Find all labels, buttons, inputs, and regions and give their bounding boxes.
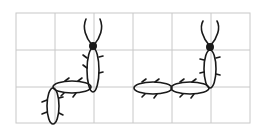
- antenna-left: [201, 21, 209, 45]
- segment-2: [171, 82, 209, 94]
- antenna-left: [84, 19, 92, 45]
- segment-1: [204, 50, 216, 88]
- legs-1: [200, 57, 220, 75]
- segment-3: [134, 82, 172, 94]
- legs-3: [42, 97, 63, 115]
- segment-1: [87, 48, 99, 92]
- antenna-right: [211, 21, 219, 45]
- legs-1: [83, 55, 103, 73]
- matchstick-figure-diagram: [0, 0, 260, 132]
- segment-3: [47, 88, 59, 124]
- right-figure: [134, 21, 220, 98]
- grid: [16, 13, 250, 123]
- antenna-right: [94, 19, 102, 45]
